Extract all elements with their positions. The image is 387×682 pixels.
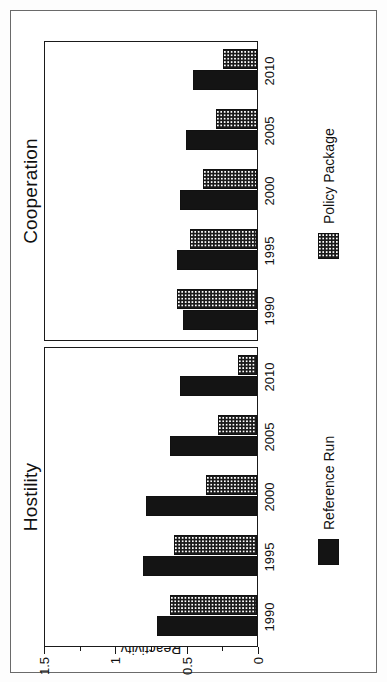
category-label-1990: 1990 (262, 297, 277, 326)
bar-reference-run (185, 131, 256, 151)
bar-policy-package (189, 230, 256, 250)
value-axis-minor-tick (151, 647, 152, 651)
legend-label-reference-run: Reference Run (320, 436, 336, 530)
value-axis: 00.511.5 (44, 647, 258, 661)
bar-reference-run (179, 377, 256, 397)
scan-artifact (168, 408, 171, 411)
value-axis-tick-label: 1 (107, 657, 122, 664)
scanned-page: Reactivity 00.511.5 Hostility 1990199520… (0, 0, 387, 682)
value-axis-tick-label: 0 (250, 657, 265, 664)
bar-reference-run (177, 251, 257, 271)
value-axis-tick (186, 647, 187, 654)
category-label-1995: 1995 (262, 543, 277, 572)
legend-item-policy-package: Policy Package (318, 128, 339, 259)
bar-policy-package (238, 356, 257, 376)
category-label-2000: 2000 (262, 177, 277, 206)
bar-policy-package (215, 110, 256, 130)
value-axis-tick-label: 0.5 (179, 657, 194, 675)
category-label-2010: 2010 (262, 57, 277, 86)
panel-hostility: Hostility 19901995200020052010 (44, 347, 306, 647)
bar-policy-package (202, 170, 256, 190)
category-label-2010: 2010 (262, 363, 277, 392)
plot-area-hostility (44, 347, 258, 647)
bar-policy-package (205, 476, 256, 496)
bar-reference-run (179, 191, 256, 211)
bar-policy-package (169, 596, 256, 616)
category-label-2005: 2005 (262, 117, 277, 146)
value-axis-tick (258, 647, 259, 654)
legend-swatch-solid-icon (318, 539, 339, 565)
category-label-2005: 2005 (262, 423, 277, 452)
panel-cooperation: Cooperation 19901995200020052010 (44, 41, 306, 341)
bar-reference-run (192, 71, 256, 91)
value-axis-minor-tick (79, 647, 80, 651)
bar-policy-package (218, 416, 257, 436)
scan-artifact (126, 226, 130, 231)
bar-reference-run (145, 497, 256, 517)
legend-swatch-checkered-icon (318, 233, 339, 259)
category-label-2000: 2000 (262, 483, 277, 512)
value-axis-minor-tick (222, 647, 223, 651)
chart-figure: Reactivity 00.511.5 Hostility 1990199520… (18, 21, 370, 661)
value-axis-tick (44, 647, 45, 654)
category-label-1990: 1990 (262, 603, 277, 632)
rotated-figure-wrapper: Reactivity 00.511.5 Hostility 1990199520… (0, 0, 387, 682)
bar-reference-run (169, 437, 256, 457)
value-axis-tick (115, 647, 116, 654)
bar-policy-package (174, 536, 257, 556)
bar-reference-run (157, 617, 257, 637)
plot-area-cooperation (44, 41, 258, 341)
bar-policy-package (222, 50, 256, 70)
category-label-1995: 1995 (262, 237, 277, 266)
legend-label-policy-package: Policy Package (320, 128, 336, 224)
panel-title-cooperation: Cooperation (20, 41, 42, 341)
bar-reference-run (182, 311, 256, 331)
value-axis-tick-label: 1.5 (36, 657, 51, 675)
legend-item-reference-run: Reference Run (318, 436, 339, 565)
bar-policy-package (177, 290, 257, 310)
bar-reference-run (142, 557, 256, 577)
panel-title-hostility: Hostility (20, 347, 42, 647)
